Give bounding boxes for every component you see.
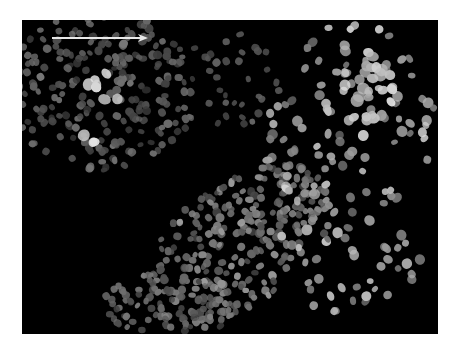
nuclei-field bbox=[22, 20, 438, 334]
microscopy-image bbox=[22, 20, 438, 334]
